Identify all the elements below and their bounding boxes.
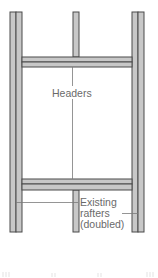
center-rafter-bottom [73,190,79,232]
framing-diagram: Headers Existing rafters (doubled) [0,0,158,278]
bottom-header [22,179,132,190]
existing-rafters-label-line3: (doubled) [80,218,124,230]
top-header [22,57,132,67]
bottom-tick-marks [3,272,153,277]
right-doubled-rafter [132,12,144,232]
center-rafter-top [73,12,79,57]
left-doubled-rafter [10,12,22,232]
headers-label: Headers [52,87,92,99]
